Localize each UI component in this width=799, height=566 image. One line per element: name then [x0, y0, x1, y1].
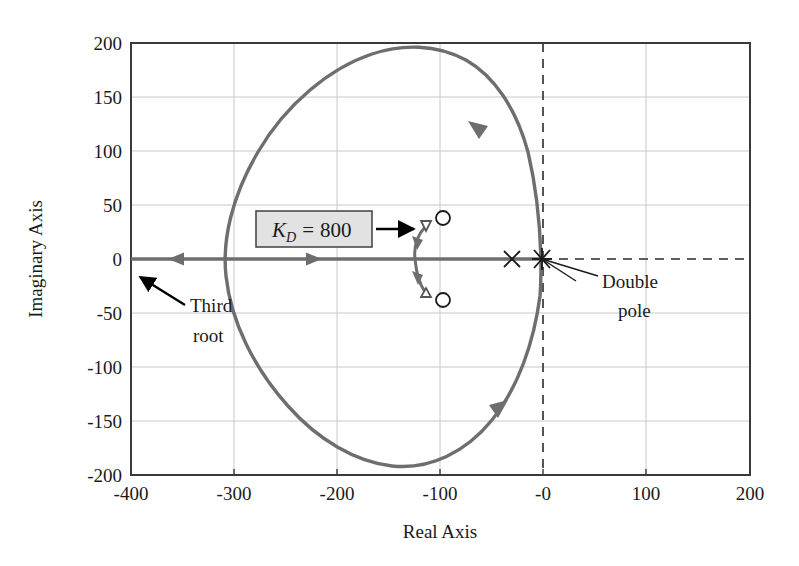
x-tick-label-1: -300: [217, 483, 252, 504]
y-tick-label-3: 50: [103, 195, 122, 216]
y-axis-title: Imaginary Axis: [25, 200, 46, 318]
third-root-label-line2: root: [193, 325, 224, 346]
x-tick-label-6: 200: [736, 483, 765, 504]
gain-equals: =: [302, 218, 314, 242]
double-pole-label-line2: pole: [618, 300, 651, 321]
y-tick-label-5: -50: [97, 303, 122, 324]
x-axis-title: Real Axis: [403, 521, 477, 542]
y-tick-label-4: 0: [113, 249, 123, 270]
gain-symbol: K: [271, 218, 287, 242]
x-tick-label-5: 100: [632, 483, 661, 504]
root-locus-figure: KD=800 Third root Double pole -400 -300: [0, 0, 799, 566]
zero-marker-upper: [436, 211, 450, 225]
x-tick-label-2: -200: [320, 483, 355, 504]
y-tick-label-7: -150: [87, 411, 122, 432]
x-tick-label-0: -400: [114, 483, 149, 504]
y-tick-labels: 200 150 100 50 0 -50 -100 -150 -200: [87, 33, 122, 486]
x-tick-label-3: -100: [423, 483, 458, 504]
y-tick-label-8: -200: [87, 465, 122, 486]
gain-subscript: D: [285, 230, 296, 245]
gain-value: 800: [320, 218, 352, 242]
y-tick-label-0: 200: [94, 33, 123, 54]
double-pole-label-line1: Double: [602, 271, 658, 292]
third-root-label-line1: Third: [190, 295, 233, 316]
gain-annotation-text: KD=800: [271, 218, 351, 245]
x-tick-label-4: -0: [535, 483, 551, 504]
y-tick-label-1: 150: [94, 87, 123, 108]
zero-marker-lower: [436, 293, 450, 307]
y-tick-label-2: 100: [94, 141, 123, 162]
y-tick-label-6: -100: [87, 357, 122, 378]
root-locus-plot: KD=800 Third root Double pole -400 -300: [0, 0, 799, 566]
x-tick-labels: -400 -300 -200 -100 -0 100 200: [114, 483, 765, 504]
